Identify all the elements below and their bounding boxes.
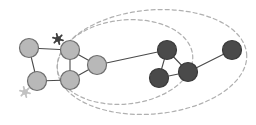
graph-node-n2[interactable]: [28, 72, 47, 91]
graph-node-n6[interactable]: [158, 41, 177, 60]
light-star-marker-icon: [20, 87, 30, 97]
dark-star-marker-icon: [53, 34, 63, 44]
graph-edge: [97, 50, 167, 65]
graph-figure: [0, 0, 256, 125]
graph-node-n1[interactable]: [20, 39, 39, 58]
graph-node-n9[interactable]: [223, 41, 242, 60]
graph-node-n4[interactable]: [61, 71, 80, 90]
graph-node-n5[interactable]: [88, 56, 107, 75]
cluster-boundary-cluster-outer: [53, 2, 251, 122]
graph-canvas: [0, 0, 256, 125]
node-layer: [20, 39, 242, 91]
dashed-cluster-layer: [53, 2, 251, 122]
graph-node-n3[interactable]: [61, 41, 80, 60]
graph-node-n8[interactable]: [179, 63, 198, 82]
graph-node-n7[interactable]: [150, 69, 169, 88]
